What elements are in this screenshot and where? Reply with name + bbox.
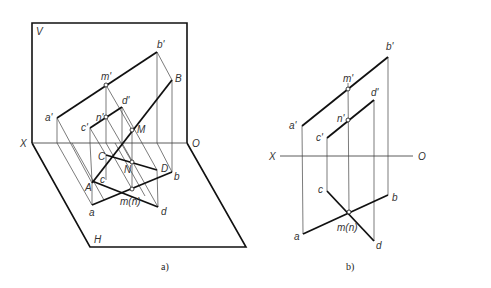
label-d-prime-a: d': [122, 95, 131, 106]
label-n-prime-b: n': [337, 113, 346, 124]
label-d-b: d: [376, 240, 382, 251]
label-b-a: b: [174, 171, 180, 182]
label-C: C: [98, 151, 106, 162]
label-v-plane: V: [36, 26, 44, 37]
label-b-prime-a: b': [157, 39, 166, 50]
label-mn-a: m(n): [120, 196, 141, 207]
label-x-b: X: [268, 151, 276, 162]
label-c-prime-b: c': [316, 132, 324, 143]
label-h-plane: H: [94, 234, 102, 245]
label-a-prime-a: a': [45, 112, 54, 123]
caption-a: a): [161, 261, 169, 273]
projection-diagram: V H X O a' b' c' d' m' n' A B C D M N a …: [0, 0, 491, 288]
label-d-a: d: [161, 206, 167, 217]
label-x-a: X: [19, 138, 27, 149]
figure-a: V H X O a' b' c' d' m' n' A B C D M N a …: [19, 23, 246, 273]
label-b-b: b: [392, 192, 398, 203]
label-c-a: c: [100, 174, 105, 185]
label-D: D: [161, 163, 168, 174]
caption-b: b): [346, 261, 354, 273]
label-a-b: a: [294, 231, 300, 242]
label-c-prime-a: c': [81, 122, 89, 133]
label-a-prime-b: a': [289, 120, 298, 131]
thick-lines-a: [57, 52, 172, 207]
label-d-prime-b: d': [371, 87, 380, 98]
projection-lines-b: [302, 57, 388, 241]
h-plane-frame: [32, 143, 246, 247]
label-o-b: O: [418, 151, 426, 162]
label-a-a: a: [89, 207, 95, 218]
label-B: B: [175, 73, 182, 84]
label-o-a: O: [192, 138, 200, 149]
label-A: A: [84, 182, 92, 193]
label-m-prime-b: m': [343, 73, 354, 84]
label-m-prime-a: m': [101, 71, 112, 82]
label-c-b: c: [318, 184, 323, 195]
label-M: M: [137, 124, 146, 135]
label-mn-b: m(n): [337, 222, 358, 233]
label-n-prime-a: n': [96, 112, 105, 123]
label-b-prime-b: b': [386, 41, 395, 52]
thick-lines-b: [302, 57, 388, 241]
projection-lines-a: [57, 52, 172, 207]
figure-b: X O a' b' c' d' m' n' a b c d m(n) b): [268, 41, 426, 273]
label-N: N: [124, 164, 132, 175]
